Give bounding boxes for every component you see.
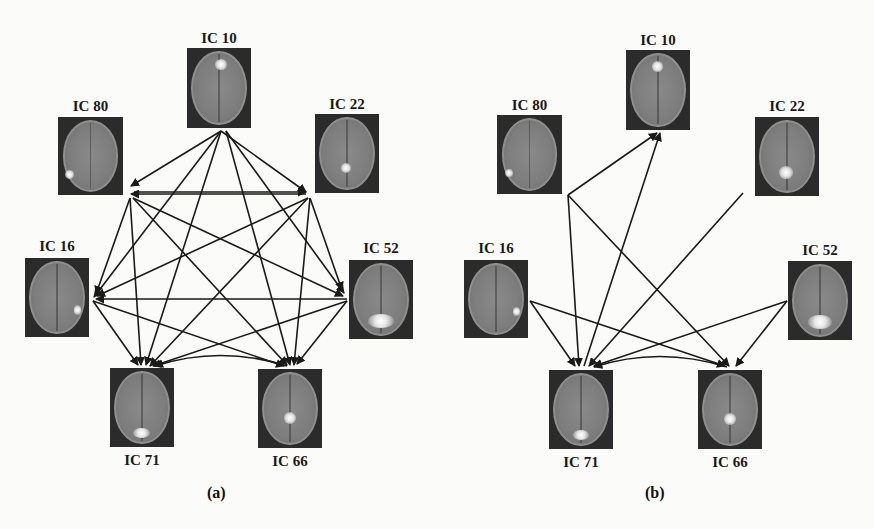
brain-scan-image [25,258,89,337]
edge-ic16-ic66 [93,301,284,366]
node-label: IC 10 [626,32,690,49]
panel-a: IC 10 IC 80 IC 22 IC 16 IC 52 [0,0,437,529]
edge-ic80-ic71 [568,195,579,366]
panel-caption: (b) [645,484,665,502]
node-ic71: IC 71 [549,370,613,476]
edge-ic80-ic52 [133,198,343,296]
edge-ic66-ic71 [594,357,727,368]
node-label: IC 80 [58,98,123,115]
edge-ic16-ic71 [93,301,138,365]
node-label: IC 52 [349,240,413,257]
node-label: IC 22 [755,98,819,115]
node-ic66: IC 66 [698,370,762,476]
node-ic16: IC 16 [464,240,528,340]
edge-ic22-ic52 [310,198,342,290]
node-label: IC 71 [110,452,174,469]
edge-ic80-ic66 [133,198,287,365]
brain-scan-image [349,260,413,339]
node-label: IC 22 [315,96,379,113]
edge-ic80-ic71 [130,198,141,365]
brain-scan-image [187,48,251,128]
node-ic52: IC 52 [788,242,852,342]
panel-caption: (a) [207,484,226,502]
panel-b: IC 10 IC 80 IC 22 IC 16 IC 52 [437,0,874,529]
brain-scan-image [58,117,123,195]
node-ic10: IC 10 [187,30,251,130]
node-ic66: IC 66 [258,369,322,475]
edge-ic52-ic71 [594,301,787,366]
node-label: IC 10 [187,30,251,47]
edge-ic22-ic16 [97,198,308,296]
node-label: IC 80 [497,97,562,114]
edge-ic22-ic66 [294,198,310,365]
brain-scan-image [464,260,528,338]
node-label: IC 52 [788,242,852,259]
brain-scan-image [788,261,852,340]
brain-scan-image [626,50,690,130]
brain-scan-image [755,117,819,196]
node-label: IC 66 [698,454,762,471]
edge-ic16-ic66 [530,301,725,366]
brain-scan-image [315,114,379,193]
node-ic22: IC 22 [755,98,819,196]
edge-ic10-ic80 [131,131,221,186]
node-label: IC 66 [258,453,322,470]
brain-scan-image [698,370,762,449]
brain-scan-image [110,368,174,447]
brain-scan-image [549,370,613,449]
edge-ic80-ic16 [96,198,130,294]
node-ic80: IC 80 [58,98,123,196]
node-ic52: IC 52 [349,240,413,340]
brain-scan-image [258,369,322,448]
node-ic71: IC 71 [110,368,174,474]
edge-ic10-ic66 [226,131,290,365]
edge-ic16-ic71 [530,301,575,366]
edge-ic52-ic66 [736,301,787,366]
node-label: IC 71 [549,454,613,471]
node-ic22: IC 22 [315,96,379,194]
edge-ic66-ic71 [155,356,287,367]
node-ic16: IC 16 [25,238,89,338]
node-label: IC 16 [25,238,89,255]
node-label: IC 16 [464,240,528,257]
edge-ic52-ic66 [297,301,347,364]
brain-scan-image [497,115,562,194]
edge-ic52-ic71 [153,301,347,366]
node-ic10: IC 10 [626,32,690,132]
node-ic80: IC 80 [497,97,562,195]
